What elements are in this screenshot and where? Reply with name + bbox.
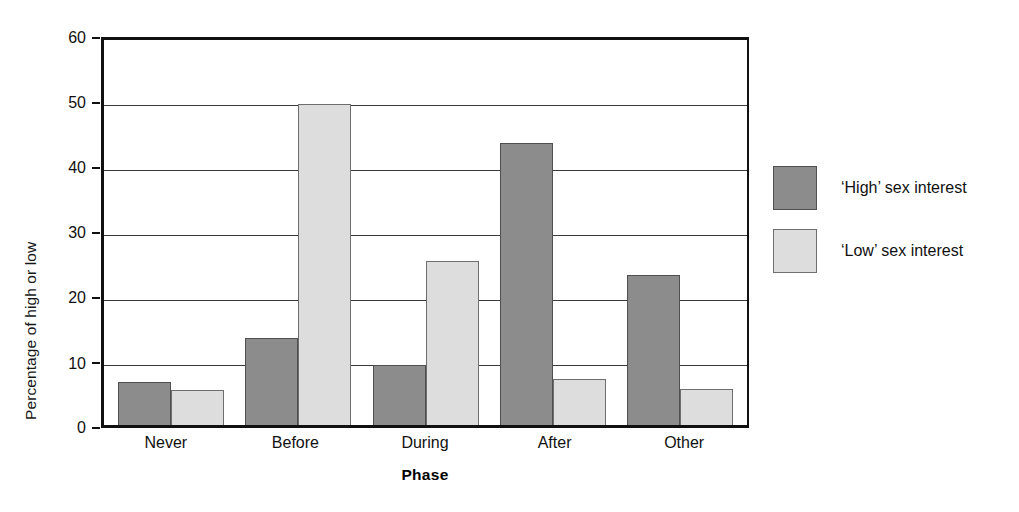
bar-before-high[interactable] xyxy=(245,338,298,425)
x-tick-label-before: Before xyxy=(231,432,361,458)
legend-label-low: ‘Low’ sex interest xyxy=(841,242,963,260)
x-tick-label-during: During xyxy=(360,432,490,458)
y-tick-label-0: 0 xyxy=(52,420,86,436)
bar-before-low[interactable] xyxy=(298,104,351,425)
legend: ‘High’ sex interest ‘Low’ sex interest xyxy=(773,165,1008,291)
y-tick-mark-10 xyxy=(92,362,100,364)
x-tick-label-never: Never xyxy=(101,432,231,458)
legend-swatch-high-icon xyxy=(773,166,817,210)
bars-layer xyxy=(104,40,747,425)
x-tick-label-after: After xyxy=(490,432,620,458)
x-axis-title: Phase xyxy=(101,466,749,484)
y-tick-label-30: 30 xyxy=(52,225,86,241)
bar-never-low[interactable] xyxy=(171,390,224,425)
y-tick-label-20: 20 xyxy=(52,290,86,306)
bar-group-after xyxy=(489,40,616,425)
y-tick-mark-0 xyxy=(92,427,100,429)
bar-group-other xyxy=(617,40,744,425)
legend-item-low: ‘Low’ sex interest xyxy=(773,228,1008,274)
y-tick-mark-50 xyxy=(92,102,100,104)
y-tick-mark-30 xyxy=(92,232,100,234)
plot-inner xyxy=(104,40,747,425)
y-tick-label-60: 60 xyxy=(52,30,86,46)
bar-other-low[interactable] xyxy=(680,389,733,425)
bar-during-low[interactable] xyxy=(426,261,479,425)
bar-during-high[interactable] xyxy=(373,365,426,425)
y-tick-label-10: 10 xyxy=(52,356,86,372)
legend-item-high: ‘High’ sex interest xyxy=(773,165,1008,211)
y-tick-mark-40 xyxy=(92,167,100,169)
bar-group-never xyxy=(107,40,234,425)
y-tick-mark-60 xyxy=(92,37,100,39)
y-tick-mark-20 xyxy=(92,297,100,299)
y-tick-label-40: 40 xyxy=(52,160,86,176)
bar-group-before xyxy=(234,40,361,425)
bar-chart: Percentage of high or low 60 50 40 30 20… xyxy=(0,0,1019,512)
x-axis-tick-labels: Never Before During After Other xyxy=(101,432,749,458)
bar-never-high[interactable] xyxy=(118,382,171,425)
bar-after-low[interactable] xyxy=(553,379,606,425)
y-tick-label-50: 50 xyxy=(52,95,86,111)
bar-group-during xyxy=(362,40,489,425)
plot-area xyxy=(101,37,749,428)
bar-after-high[interactable] xyxy=(500,143,553,425)
legend-swatch-low-icon xyxy=(773,229,817,273)
bar-other-high[interactable] xyxy=(627,275,680,425)
y-axis-title: Percentage of high or low xyxy=(22,20,56,420)
legend-label-high: ‘High’ sex interest xyxy=(841,179,967,197)
x-tick-label-other: Other xyxy=(619,432,749,458)
